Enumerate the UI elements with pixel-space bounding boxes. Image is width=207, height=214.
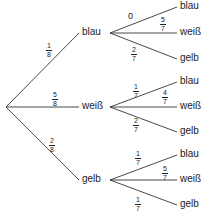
leaf-gelb-blau: blau: [180, 149, 199, 159]
prob-blau-gelb: 27: [131, 46, 137, 62]
leaf-weiß-weiß: weiß: [180, 101, 201, 111]
prob-root-blau: 18: [46, 42, 52, 58]
leaf-blau-gelb: gelb: [180, 53, 199, 63]
leaf-blau-blau: blau: [180, 1, 199, 11]
branch-blau-blau: [110, 7, 177, 33]
branch-weiß-gelb: [110, 107, 177, 132]
leaf-blau-weiß: weiß: [180, 27, 201, 37]
prob-gelb-gelb: 17: [135, 196, 141, 212]
node-gelb: gelb: [82, 174, 101, 184]
branch-root-blau: [6, 33, 79, 107]
prob-blau-blau: 0: [128, 12, 133, 21]
leaf-gelb-gelb: gelb: [180, 199, 199, 209]
branch-root-gelb: [6, 107, 79, 180]
leaf-weiß-blau: blau: [180, 76, 199, 86]
prob-weiß-gelb: 27: [133, 117, 139, 133]
prob-root-gelb: 28: [49, 137, 55, 153]
branch-gelb-gelb: [110, 180, 177, 205]
leaf-gelb-weiß: weiß: [180, 174, 201, 184]
node-weiß: weiß: [82, 101, 103, 111]
tree-lines: [0, 0, 207, 214]
node-blau: blau: [82, 27, 101, 37]
prob-root-weiß: 58: [52, 91, 58, 107]
branch-blau-gelb: [110, 33, 177, 59]
prob-weiß-weiß: 47: [162, 89, 168, 105]
prob-weiß-blau: 17: [133, 83, 139, 99]
prob-blau-weiß: 57: [160, 16, 166, 32]
prob-gelb-blau: 17: [135, 150, 141, 166]
prob-gelb-weiß: 57: [162, 165, 168, 181]
leaf-weiß-gelb: gelb: [180, 126, 199, 136]
